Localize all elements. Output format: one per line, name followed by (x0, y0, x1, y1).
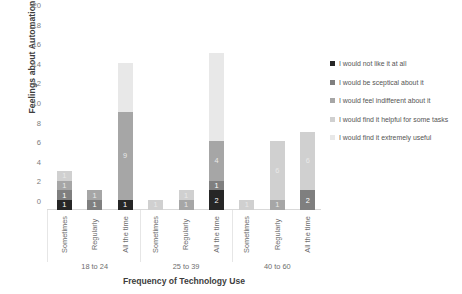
legend-swatch-icon (330, 117, 335, 122)
group-separator (140, 210, 141, 262)
bar-series-container: 111111195111214911626 (47, 14, 321, 210)
bar-segment[interactable]: 1 (87, 200, 102, 210)
bar-stack[interactable]: 1111 (57, 171, 72, 210)
stacked-bar-chart: Feelings about Automation 02468101214161… (0, 0, 462, 294)
y-axis-tick-label: 2 (37, 177, 41, 186)
legend-swatch-icon (330, 135, 335, 140)
legend-item[interactable]: I would find it helpful for some tasks (330, 116, 462, 123)
bar-segment[interactable]: 4 (209, 141, 224, 180)
y-axis-tick-label: 12 (33, 79, 41, 88)
legend-label: I would be sceptical about it (339, 79, 424, 86)
bar-segment[interactable]: 1 (148, 200, 163, 210)
bar-segment[interactable]: 1 (57, 181, 72, 191)
x-axis-group-label: 18 to 24 (50, 262, 140, 271)
legend-label: I would find it extremely useful (339, 134, 431, 141)
x-axis-tick-text: Regularly (181, 219, 190, 250)
x-axis-tick-text: Sometimes (242, 216, 251, 253)
bar-stack[interactable]: 1 (239, 200, 254, 210)
bar-segment[interactable]: 1 (239, 200, 254, 210)
bar-segment[interactable]: 1 (179, 190, 194, 200)
y-axis-tick-label: 6 (37, 138, 41, 147)
x-axis-title: Frequency of Technology Use (47, 276, 321, 286)
bar-stack[interactable]: 195 (118, 63, 133, 210)
x-axis-tick-text: Regularly (90, 219, 99, 250)
y-axis-tick-label: 0 (37, 197, 41, 206)
legend-swatch-icon (330, 61, 335, 66)
bar-stack[interactable]: 11 (87, 190, 102, 210)
x-axis-group-label: 25 to 39 (141, 262, 231, 271)
y-axis-tick-label: 4 (37, 157, 41, 166)
x-axis-tick-text: Regularly (273, 219, 282, 250)
bar-segment[interactable]: 1 (179, 200, 194, 210)
bar-segment[interactable]: 1 (57, 171, 72, 181)
bar-stack[interactable]: 11 (179, 190, 194, 210)
bar-segment[interactable]: 2 (209, 190, 224, 210)
y-axis-tick-label: 20 (33, 1, 41, 10)
group-separator (47, 210, 48, 262)
bar-segment[interactable]: 2 (300, 190, 315, 210)
legend-item[interactable]: I would be sceptical about it (330, 79, 462, 86)
y-axis-tick-label: 14 (33, 59, 41, 68)
bar-segment[interactable]: 9 (209, 53, 224, 141)
x-axis-tick-text: All the time (212, 216, 221, 253)
bar-stack[interactable]: 1 (148, 200, 163, 210)
y-axis-tick-label: 16 (33, 40, 41, 49)
bar-segment[interactable]: 1 (270, 200, 285, 210)
legend-swatch-icon (330, 98, 335, 103)
y-axis-tick-label: 18 (33, 20, 41, 29)
bar-segment[interactable]: 1 (57, 200, 72, 210)
bar-segment[interactable]: 1 (57, 190, 72, 200)
y-axis-tick-label: 10 (33, 99, 41, 108)
bar-stack[interactable]: 16 (270, 141, 285, 210)
x-axis-tick-text: Sometimes (151, 216, 160, 253)
legend-item[interactable]: I would not like it at all (330, 60, 462, 67)
x-axis-group-label: 40 to 60 (232, 262, 322, 271)
bar-stack[interactable]: 26 (300, 132, 315, 210)
plot-area: 02468101214161820 111111195111214911626 (47, 14, 321, 210)
legend-item[interactable]: I would feel indifferent about it (330, 97, 462, 104)
x-axis-tick-text: All the time (121, 216, 130, 253)
x-axis-tick-text: All the time (303, 216, 312, 253)
bar-segment[interactable]: 1 (118, 200, 133, 210)
bar-segment[interactable]: 5 (118, 63, 133, 112)
legend-swatch-icon (330, 80, 335, 85)
legend-label: I would feel indifferent about it (339, 97, 430, 104)
group-separator (232, 210, 233, 262)
legend-label: I would find it helpful for some tasks (339, 116, 448, 123)
legend-item[interactable]: I would find it extremely useful (330, 134, 462, 141)
chart-legend: I would not like it at allI would be sce… (330, 60, 462, 153)
x-axis-tick-label: All the time (285, 214, 331, 239)
legend-label: I would not like it at all (339, 60, 406, 67)
bar-segment[interactable]: 6 (270, 141, 285, 200)
y-axis-tick-label: 8 (37, 118, 41, 127)
bar-segment[interactable]: 6 (300, 132, 315, 191)
bar-segment[interactable]: 1 (209, 181, 224, 191)
x-axis-tick-text: Sometimes (60, 216, 69, 253)
bar-segment[interactable]: 9 (118, 112, 133, 200)
bar-stack[interactable]: 2149 (209, 53, 224, 210)
bar-segment[interactable]: 1 (87, 190, 102, 200)
